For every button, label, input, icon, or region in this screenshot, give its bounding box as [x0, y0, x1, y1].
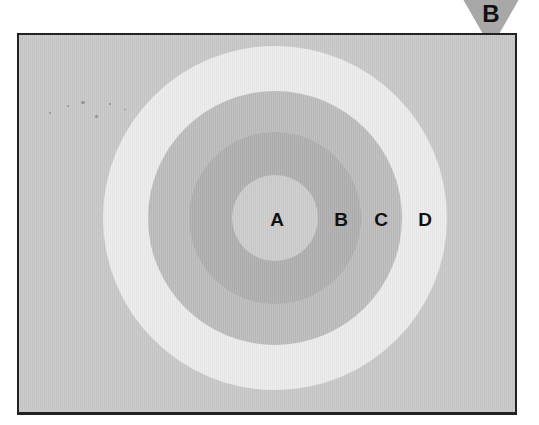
label-d: D: [418, 210, 432, 229]
label-b: B: [334, 210, 348, 229]
label-c: C: [374, 210, 388, 229]
label-a: A: [270, 210, 284, 229]
badge-letter: B: [456, 0, 526, 28]
diagram-frame: A B C D: [17, 33, 517, 415]
